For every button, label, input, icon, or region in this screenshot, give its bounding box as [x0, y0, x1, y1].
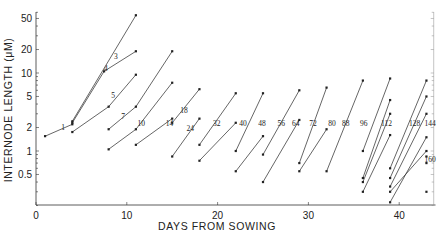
internode-number-label: 56 — [277, 119, 285, 128]
segment-labels: 1345710141824324048566472808896112128144… — [61, 52, 436, 164]
y-tick-label: 5 — [26, 91, 32, 102]
growth-segment — [390, 151, 426, 192]
y-tick-label: 1 — [26, 146, 32, 157]
y-tick-label: 20 — [21, 44, 33, 55]
data-point — [135, 106, 137, 108]
data-point — [135, 128, 137, 130]
internode-number-label: 64 — [292, 119, 300, 128]
data-point — [262, 135, 264, 137]
internode-number-label: 80 — [328, 119, 336, 128]
growth-segment — [109, 83, 173, 150]
data-point — [425, 150, 427, 152]
data-point — [235, 122, 237, 124]
data-point — [425, 136, 427, 138]
y-tick-label: 2 — [26, 122, 32, 133]
growth-segment — [72, 51, 136, 123]
growth-segment — [363, 100, 390, 178]
internode-number-label: 7 — [121, 112, 125, 121]
data-point — [262, 92, 264, 94]
data-point — [389, 99, 391, 101]
growth-segment — [199, 123, 235, 161]
data-series — [44, 14, 428, 203]
y-axis-label: INTERNODE LENGTH (μM) — [2, 38, 14, 183]
data-point — [425, 95, 427, 97]
x-axis-label: DAYS FROM SOWING — [158, 220, 276, 232]
y-tick-label: 10 — [21, 68, 33, 79]
internode-number-label: 144 — [424, 119, 436, 128]
data-point — [135, 74, 137, 76]
internode-number-label: 4 — [104, 64, 108, 73]
data-point — [198, 144, 200, 146]
internode-number-label: 72 — [309, 119, 317, 128]
data-point — [108, 106, 110, 108]
internode-number-label: 128 — [409, 119, 421, 128]
internode-number-label: 112 — [381, 119, 392, 128]
data-point — [389, 177, 391, 179]
internode-number-label: 3 — [114, 52, 118, 61]
internode-number-label: 96 — [360, 119, 368, 128]
data-point — [171, 155, 173, 157]
growth-segment — [299, 129, 326, 171]
data-point — [135, 50, 137, 52]
data-point — [389, 77, 391, 79]
data-point — [71, 122, 73, 124]
data-point — [198, 160, 200, 162]
data-point — [71, 131, 73, 133]
x-tick-label: 40 — [394, 210, 406, 221]
data-point — [198, 88, 200, 90]
internode-number-label: 18 — [180, 106, 188, 115]
data-point — [108, 148, 110, 150]
data-point — [389, 185, 391, 187]
growth-segment — [236, 136, 263, 171]
data-point — [362, 150, 364, 152]
internode-number-label: 40 — [239, 119, 247, 128]
data-point — [389, 113, 391, 115]
data-point — [262, 153, 264, 155]
growth-segment — [390, 137, 426, 202]
data-point — [44, 135, 46, 137]
internode-number-label: 1 — [61, 123, 65, 132]
growth-segment — [45, 124, 72, 136]
data-point — [425, 113, 427, 115]
data-point — [135, 14, 137, 16]
data-point — [325, 86, 327, 88]
growth-segment — [72, 75, 136, 132]
data-point — [198, 118, 200, 120]
data-point — [108, 128, 110, 130]
data-point — [325, 170, 327, 172]
data-point — [362, 191, 364, 193]
axes: 0.5125102050010203040 — [18, 12, 435, 221]
internode-number-label: 14 — [166, 119, 174, 128]
y-tick-label: 50 — [21, 13, 33, 24]
data-point — [389, 191, 391, 193]
data-point — [235, 150, 237, 152]
x-tick-label: 10 — [121, 210, 133, 221]
data-point — [235, 170, 237, 172]
internode-length-chart: 0.5125102050010203040 134571014182432404… — [0, 0, 445, 238]
data-point — [425, 191, 427, 193]
internode-number-label: 48 — [258, 119, 266, 128]
data-point — [362, 177, 364, 179]
internode-number-label: 32 — [213, 119, 221, 128]
data-point — [235, 92, 237, 94]
data-point — [171, 50, 173, 52]
data-point — [298, 89, 300, 91]
internode-number-label: 88 — [342, 119, 350, 128]
growth-segment — [263, 120, 299, 182]
internode-number-label: 5 — [111, 91, 115, 100]
data-point — [171, 82, 173, 84]
data-point — [389, 167, 391, 169]
x-tick-label: 0 — [33, 210, 39, 221]
data-point — [262, 181, 264, 183]
data-point — [362, 181, 364, 183]
y-tick-label: 0.5 — [18, 169, 32, 180]
internode-number-label: 10 — [138, 119, 146, 128]
data-point — [389, 201, 391, 203]
data-point — [425, 79, 427, 81]
data-point — [389, 134, 391, 136]
growth-segment — [390, 97, 426, 179]
data-point — [135, 144, 137, 146]
data-point — [298, 170, 300, 172]
internode-number-label: 160 — [424, 155, 436, 164]
data-point — [298, 162, 300, 164]
